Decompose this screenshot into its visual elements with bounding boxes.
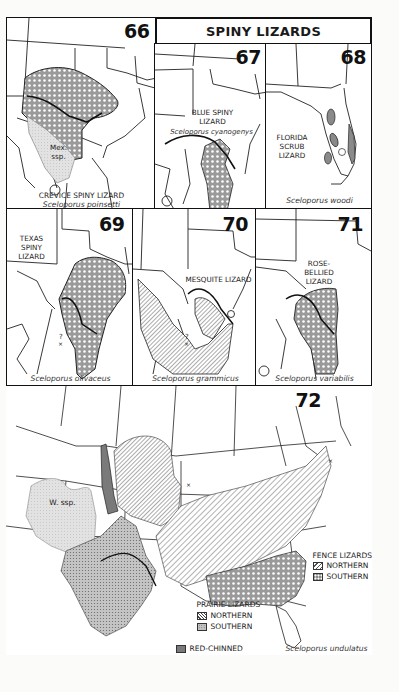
- legend-fence-northern: NORTHERN: [313, 561, 369, 570]
- legend-label: SOUTHERN: [327, 572, 369, 581]
- legend-red-chinned: RED-CHINNED: [176, 644, 243, 653]
- scientific-name: Sceloporus olivaceus: [7, 374, 134, 383]
- range-map-72: × ×: [6, 386, 372, 655]
- range-map-68: [266, 44, 372, 210]
- range-map-66: [7, 18, 156, 210]
- scientific-name: Sceloporus grammicus: [133, 374, 257, 383]
- map-panel-67: 67 BLUE SPINY LIZARD Sceloporus cyanogen…: [154, 43, 267, 210]
- legend-label: NORTHERN: [211, 611, 253, 620]
- map-number: 66: [124, 20, 149, 42]
- common-name: BLUE SPINY LIZARD: [185, 108, 240, 126]
- scientific-name: Sceloporus woodi: [266, 196, 372, 205]
- map-panel-72: × × 72 W. ssp. FENCE LIZARDS NORTHERN SO…: [6, 385, 373, 655]
- map-panel-68: 68 FLORIDA SCRUB LIZARD Sceloporus woodi: [265, 43, 372, 210]
- map-number: 68: [341, 46, 366, 68]
- svg-text:×: ×: [184, 340, 189, 347]
- map-number: 72: [296, 389, 321, 411]
- legend-fence-southern: SOUTHERN: [313, 572, 369, 581]
- legend-prairie-southern: SOUTHERN: [197, 622, 253, 631]
- legend-prairie-northern: NORTHERN: [197, 611, 253, 620]
- map-number: 70: [223, 213, 248, 235]
- scientific-name: Sceloporus variabilis: [256, 374, 372, 383]
- map-number: 67: [236, 46, 261, 68]
- scientific-name: Sceloporus cyanogenys: [155, 128, 267, 136]
- legend-title-prairie: PRAIRIE LIZARDS: [197, 600, 261, 609]
- map-number: 71: [338, 213, 363, 235]
- legend-label: SOUTHERN: [211, 622, 253, 631]
- svg-text:×: ×: [186, 481, 191, 488]
- legend-title-fence: FENCE LIZARDS: [313, 551, 372, 560]
- page-title: SPINY LIZARDS: [155, 17, 372, 46]
- map-annotation: W. ssp.: [48, 498, 78, 507]
- range-map-67: [155, 44, 267, 210]
- common-name: MESQUITE LIZARD: [181, 275, 256, 284]
- common-name: FLORIDA SCRUB LIZARD: [274, 133, 310, 160]
- svg-text:×: ×: [58, 340, 63, 347]
- map-panel-69: ? × 69 TEXAS SPINY LIZARD Sceloporus oli…: [6, 208, 134, 387]
- range-map-70: ? ×: [133, 209, 257, 387]
- map-panel-66: 66 Mex. ssp. CREVICE SPINY LIZARD Scelop…: [6, 17, 156, 210]
- map-annotation: Mex. ssp.: [46, 143, 72, 161]
- map-page-frame: SPINY LIZARDS 66 Mex. ssp. CREVICE SPINY…: [6, 17, 370, 653]
- sparse-diagonal-swatch-icon: [313, 562, 323, 570]
- crosshatch-swatch-icon: [313, 573, 323, 581]
- map-panel-71: 71 ROSE-BELLIED LIZARD Sceloporus variab…: [255, 208, 372, 387]
- legend-label: NORTHERN: [327, 561, 369, 570]
- dense-diagonal-swatch-icon: [197, 612, 207, 620]
- range-map-71: [256, 209, 372, 387]
- common-name: TEXAS SPINY LIZARD: [17, 234, 47, 261]
- legend-label: RED-CHINNED: [190, 644, 243, 653]
- solid-gray-swatch-icon: [176, 645, 186, 653]
- dots-swatch-icon: [197, 623, 207, 631]
- svg-text:×: ×: [328, 457, 333, 464]
- map-panel-70: ? × 70 MESQUITE LIZARD Sceloporus grammi…: [132, 208, 257, 387]
- scientific-name: Sceloporus undulatus: [286, 644, 373, 653]
- common-name: ROSE-BELLIED LIZARD: [294, 259, 344, 286]
- common-name: CREVICE SPINY LIZARD: [7, 191, 156, 200]
- map-number: 69: [99, 213, 124, 235]
